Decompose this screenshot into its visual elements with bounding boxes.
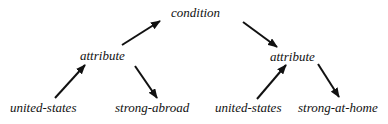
arrow-left-attribute-to-strong-abroad	[135, 66, 157, 98]
arrow-condition-to-right-attribute	[243, 22, 277, 47]
node-condition: condition	[171, 6, 220, 20]
node-left-attribute: attribute	[80, 49, 125, 63]
arrow-united-states-to-left-attribute	[55, 65, 85, 98]
arrow-right-attribute-to-strong-at-home	[318, 64, 339, 97]
tree-diagram: condition attribute attribute united-sta…	[0, 0, 388, 124]
node-right-united-states: united-states	[215, 101, 281, 115]
arrow-left-attribute-to-condition	[122, 21, 160, 45]
node-strong-abroad: strong-abroad	[115, 101, 189, 115]
arrow-united-states-to-right-attribute	[257, 65, 286, 99]
node-strong-at-home: strong-at-home	[298, 101, 378, 115]
node-right-attribute: attribute	[270, 50, 315, 64]
node-left-united-states: united-states	[10, 101, 76, 115]
